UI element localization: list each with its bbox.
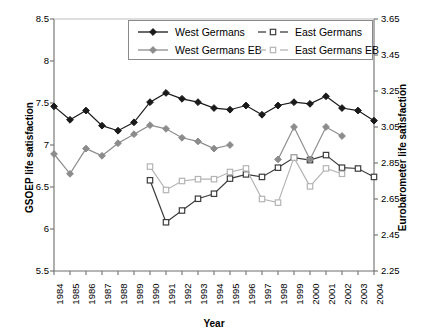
y-tick-label-right: 2.65 xyxy=(381,193,415,204)
x-tick-label: 1991 xyxy=(166,284,177,324)
series-1 xyxy=(147,152,376,225)
x-tick-label: 1997 xyxy=(262,284,273,324)
x-tick-label: 1993 xyxy=(198,284,209,324)
x-tick-label: 2004 xyxy=(374,284,385,324)
y-tick-label-left: 7.5 xyxy=(19,97,49,108)
x-tick-label: 1988 xyxy=(118,284,129,324)
legend-open-square-icon xyxy=(255,23,293,41)
y-tick-label-right: 3.05 xyxy=(381,121,415,132)
x-tick-label: 1984 xyxy=(54,284,65,324)
legend-filled-diamond-icon xyxy=(135,41,173,59)
y-tick-label-left: 6 xyxy=(19,223,49,234)
x-tick-label: 1989 xyxy=(134,284,145,324)
y-tick-label-right: 3.25 xyxy=(381,85,415,96)
x-tick-label: 2001 xyxy=(326,284,337,324)
y-tick-label-left: 7 xyxy=(19,139,49,150)
y-tick-label-right: 2.25 xyxy=(381,265,415,276)
x-tick-label: 2003 xyxy=(358,284,369,324)
legend-filled-diamond-icon xyxy=(135,23,173,41)
legend-label: West Germans EB xyxy=(175,41,262,59)
x-tick-label: 1986 xyxy=(86,284,97,324)
x-tick-label: 1992 xyxy=(182,284,193,324)
x-tick-label: 2002 xyxy=(342,284,353,324)
legend-label: East Germans EB xyxy=(295,41,379,59)
x-tick-label: 1996 xyxy=(246,284,257,324)
x-tick-label: 2000 xyxy=(310,284,321,324)
y-tick-label-left: 5.5 xyxy=(19,265,49,276)
x-tick-label: 1995 xyxy=(230,284,241,324)
x-tick-label: 1994 xyxy=(214,284,225,324)
series-2 xyxy=(51,122,346,177)
legend-open-square-icon xyxy=(255,41,293,59)
legend-label: East Germans xyxy=(295,23,362,41)
x-tick-label: 1999 xyxy=(294,284,305,324)
chart-figure: GSOEP life satisfaction Eurobarometer li… xyxy=(0,0,426,336)
y-tick-label-right: 3.45 xyxy=(381,49,415,60)
y-tick-label-right: 3.65 xyxy=(381,13,415,24)
x-tick-label: 1987 xyxy=(102,284,113,324)
x-tick-label: 1998 xyxy=(278,284,289,324)
series-3 xyxy=(147,155,344,205)
y-tick-label-left: 8 xyxy=(19,55,49,66)
legend-label: West Germans xyxy=(175,23,245,41)
chart-legend: West GermansEast GermansWest Germans EBE… xyxy=(128,20,373,60)
y-tick-label-left: 8.5 xyxy=(19,13,49,24)
x-tick-label: 1985 xyxy=(70,284,81,324)
y-tick-label-left: 6.5 xyxy=(19,181,49,192)
y-tick-label-right: 2.85 xyxy=(381,157,415,168)
y-tick-label-right: 2.45 xyxy=(381,229,415,240)
x-tick-label: 1990 xyxy=(150,284,161,324)
